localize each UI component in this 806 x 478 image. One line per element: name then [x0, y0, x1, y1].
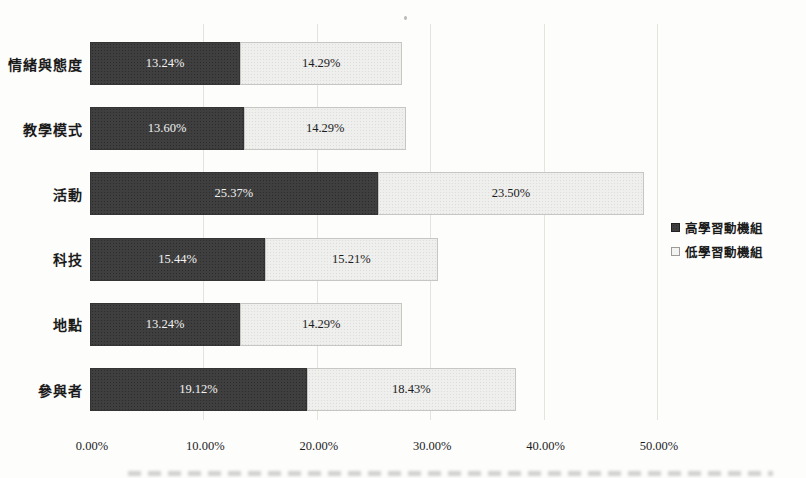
- value-label: 13.24%: [146, 317, 185, 332]
- bar-segment-high-motivation: 13.60%: [90, 107, 244, 150]
- category-label: 情緒與態度: [0, 42, 83, 85]
- bar-segments: 13.60%14.29%: [90, 107, 406, 150]
- bar-segment-low-motivation: 14.29%: [240, 42, 402, 85]
- value-label: 14.29%: [302, 317, 341, 332]
- legend-label: 低學習動機組: [685, 242, 763, 261]
- x-tick-label: 30.00%: [397, 439, 467, 454]
- bar-segment-low-motivation: 14.29%: [240, 303, 402, 346]
- legend-item-low-motivation: 低學習動機組: [671, 242, 763, 261]
- bar-row: 教學模式13.60%14.29%: [0, 107, 806, 150]
- value-label: 14.29%: [302, 56, 341, 71]
- value-label: 23.50%: [492, 186, 531, 201]
- bar-segments: 13.24%14.29%: [90, 303, 402, 346]
- legend-swatch-icon: [671, 247, 680, 256]
- x-tick-label: 10.00%: [170, 439, 240, 454]
- x-tick-label: 20.00%: [284, 439, 354, 454]
- value-label: 14.29%: [306, 121, 345, 136]
- legend-item-high-motivation: 高學習動機組: [671, 218, 763, 237]
- bar-segments: 13.24%14.29%: [90, 42, 402, 85]
- bar-segment-low-motivation: 18.43%: [307, 368, 516, 411]
- legend-label: 高學習動機組: [685, 218, 763, 237]
- x-tick-label: 0.00%: [57, 439, 127, 454]
- scan-speck-artifact: [404, 16, 407, 20]
- bar-segment-high-motivation: 13.24%: [90, 42, 240, 85]
- bar-segments: 19.12%18.43%: [90, 368, 516, 411]
- value-label: 13.24%: [146, 56, 185, 71]
- value-label: 18.43%: [392, 382, 431, 397]
- bar-segment-high-motivation: 15.44%: [90, 238, 265, 281]
- legend-swatch-icon: [671, 223, 680, 232]
- bar-segment-low-motivation: 15.21%: [265, 238, 437, 281]
- legend: 高學習動機組低學習動機組: [671, 218, 763, 261]
- value-label: 25.37%: [215, 186, 254, 201]
- category-label: 科技: [0, 238, 83, 281]
- bar-row: 活動25.37%23.50%: [0, 172, 806, 215]
- bar-row: 地點13.24%14.29%: [0, 303, 806, 346]
- bar-segment-high-motivation: 13.24%: [90, 303, 240, 346]
- category-label: 參與者: [0, 368, 83, 411]
- bar-segment-low-motivation: 14.29%: [244, 107, 406, 150]
- value-label: 15.44%: [158, 252, 197, 267]
- category-label: 地點: [0, 303, 83, 346]
- bar-segments: 25.37%23.50%: [90, 172, 644, 215]
- stacked-bar-chart: 情緒與態度13.24%14.29%教學模式13.60%14.29%活動25.37…: [0, 0, 806, 478]
- cutoff-caption-artifact: [128, 471, 773, 476]
- bar-row: 情緒與態度13.24%14.29%: [0, 42, 806, 85]
- value-label: 13.60%: [148, 121, 187, 136]
- value-label: 15.21%: [332, 252, 371, 267]
- bar-segment-low-motivation: 23.50%: [378, 172, 644, 215]
- x-tick-label: 40.00%: [511, 439, 581, 454]
- value-label: 19.12%: [179, 382, 218, 397]
- bar-segment-high-motivation: 19.12%: [90, 368, 307, 411]
- category-label: 活動: [0, 172, 83, 215]
- bar-row: 參與者19.12%18.43%: [0, 368, 806, 411]
- bar-segment-high-motivation: 25.37%: [90, 172, 378, 215]
- category-label: 教學模式: [0, 107, 83, 150]
- scanned-page: 情緒與態度13.24%14.29%教學模式13.60%14.29%活動25.37…: [0, 0, 806, 478]
- bar-segments: 15.44%15.21%: [90, 238, 438, 281]
- x-tick-label: 50.00%: [624, 439, 694, 454]
